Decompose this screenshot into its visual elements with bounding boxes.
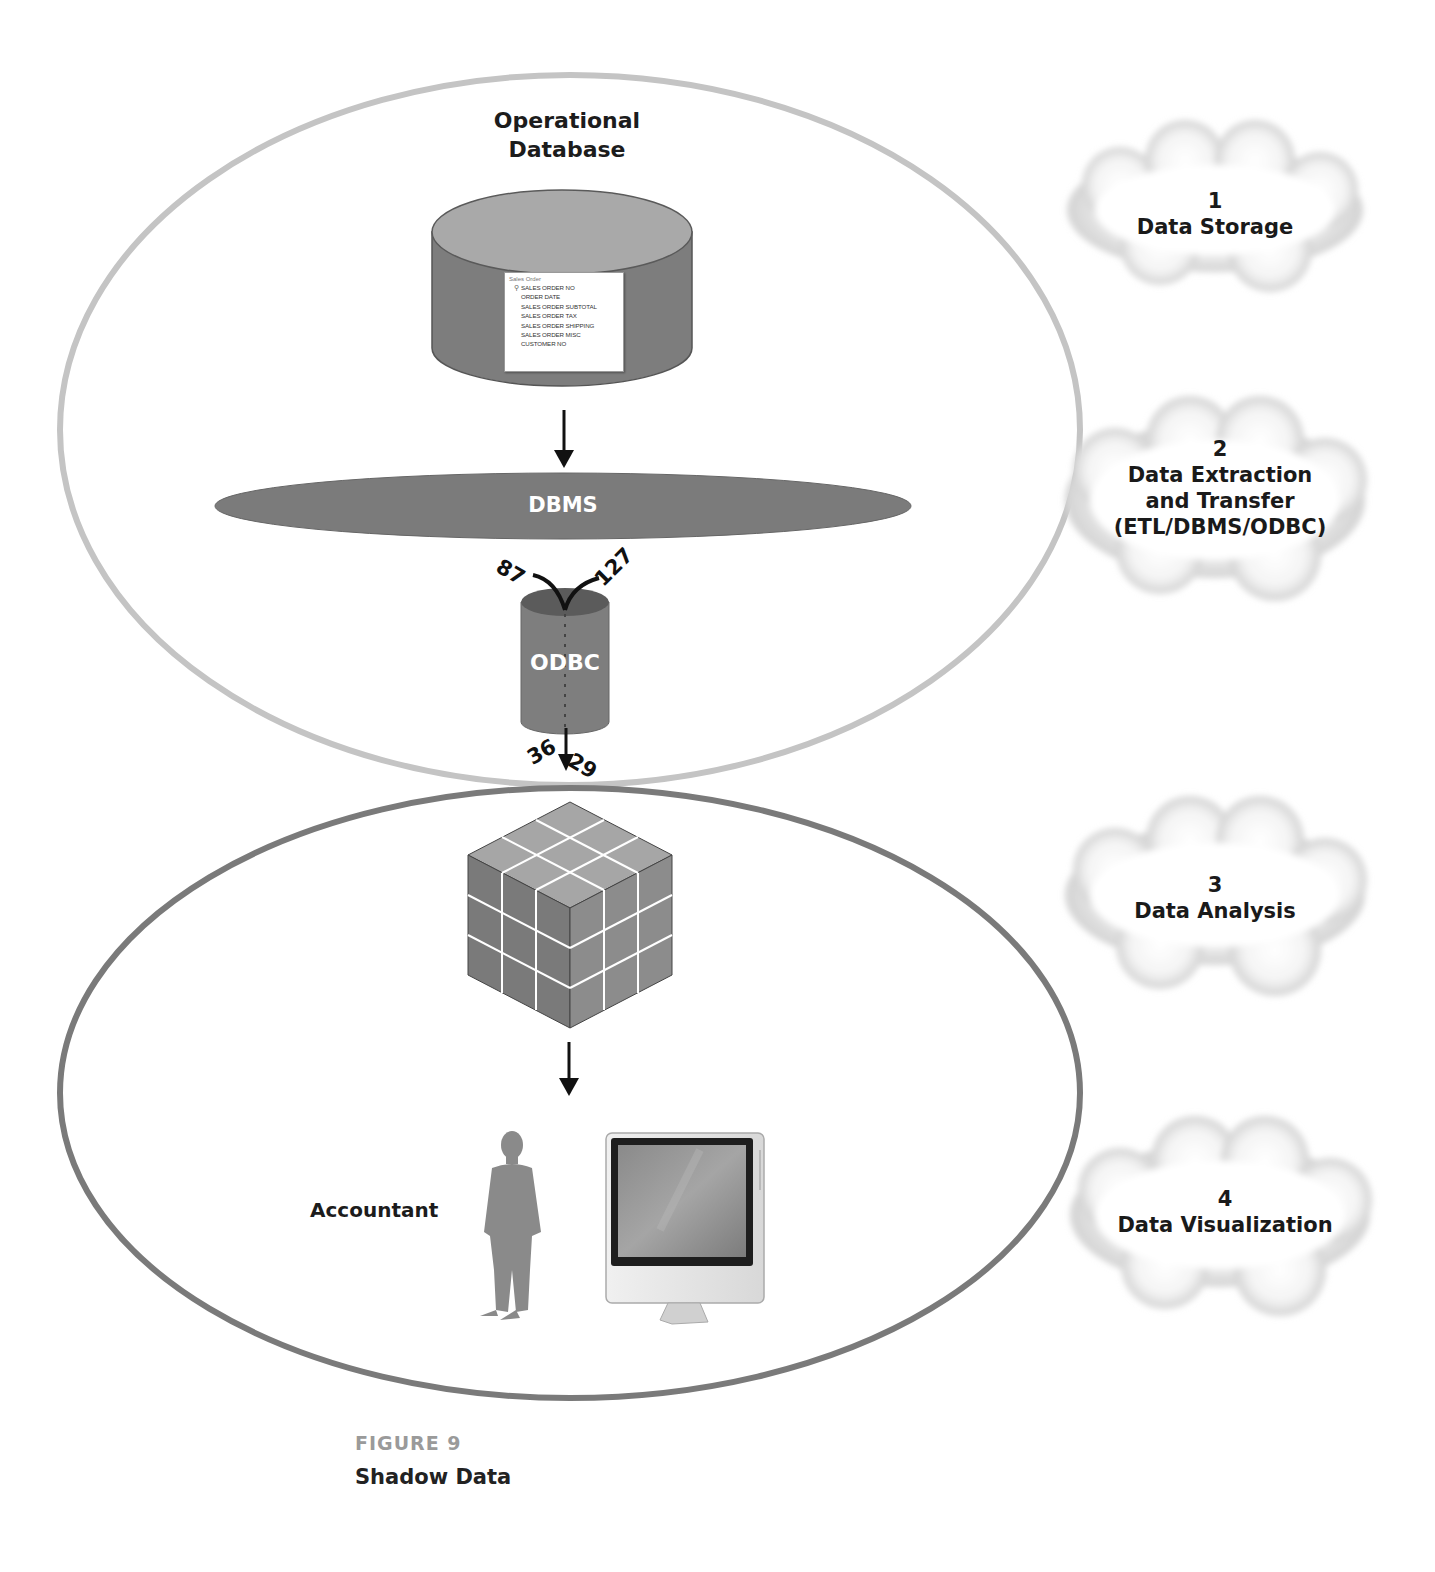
arrow-down-icon <box>554 410 574 468</box>
monitor-icon <box>606 1133 764 1324</box>
table-field: CUSTOMER NO <box>521 339 619 348</box>
cloud-4-text: 4 Data Visualization <box>1100 1186 1350 1238</box>
title-line-2: Database <box>412 135 722 164</box>
accountant-label: Accountant <box>310 1198 470 1222</box>
table-field: SALES ORDER MISC <box>521 330 619 339</box>
cloud-number: 4 <box>1100 1186 1350 1212</box>
table-field: SALES ORDER SHIPPING <box>521 321 619 330</box>
table-field: ORDER DATE <box>521 292 619 301</box>
cloud-3-text: 3 Data Analysis <box>1090 872 1340 924</box>
table-field: SALES ORDER TAX <box>521 311 619 320</box>
cloud-number: 2 <box>1090 436 1350 462</box>
sales-order-table: Sales Order ⚲ SALES ORDER NO ORDER DATE … <box>504 272 624 372</box>
table-fields: SALES ORDER NO ORDER DATE SALES ORDER SU… <box>505 283 623 349</box>
dbms-label: DBMS <box>463 493 663 517</box>
table-field: SALES ORDER SUBTOTAL <box>521 302 619 311</box>
table-name: Sales Order <box>505 273 623 283</box>
title-line-1: Operational <box>412 106 722 135</box>
cloud-2-text: 2 Data Extraction and Transfer (ETL/DBMS… <box>1090 436 1350 540</box>
figure-label: FIGURE 9 <box>355 1432 462 1454</box>
arrow-down-icon <box>559 1042 579 1096</box>
odbc-label: ODBC <box>505 650 625 675</box>
cloud-number: 1 <box>1090 188 1340 214</box>
businessman-icon <box>480 1131 541 1320</box>
cloud-number: 3 <box>1090 872 1340 898</box>
cloud-line: (ETL/DBMS/ODBC) <box>1090 514 1350 540</box>
olap-cube-icon <box>468 802 672 1028</box>
cloud-line: Data Extraction <box>1090 462 1350 488</box>
table-field: SALES ORDER NO <box>521 283 619 292</box>
key-icon: ⚲ <box>514 284 519 292</box>
cloud-1-text: 1 Data Storage <box>1090 188 1340 240</box>
cloud-line: Data Analysis <box>1090 898 1340 924</box>
cloud-line: and Transfer <box>1090 488 1350 514</box>
operational-database-title: Operational Database <box>412 106 722 164</box>
cloud-line: Data Storage <box>1090 214 1340 240</box>
figure-caption: Shadow Data <box>355 1465 511 1489</box>
cloud-line: Data Visualization <box>1100 1212 1350 1238</box>
